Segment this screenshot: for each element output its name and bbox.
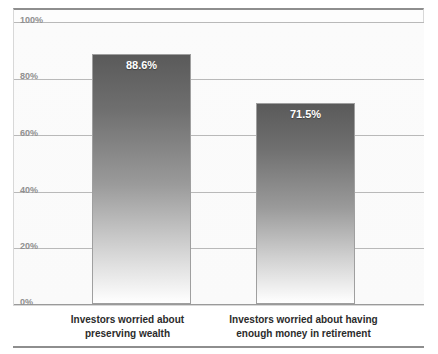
y-axis-tick-80: 80%: [20, 72, 66, 81]
category-label-1-line-1: Investors worried about: [71, 314, 184, 325]
y-axis-tick-0: 0%: [20, 298, 66, 307]
gridline-60: [14, 135, 424, 136]
category-label-2-line-2: enough money in retirement: [212, 327, 395, 341]
chart-container: 88.6% 71.5% 100% 80% 60% 40% 20% 0% Inve…: [0, 0, 438, 354]
plot-area: 88.6% 71.5%: [14, 22, 424, 305]
gridline-80: [14, 79, 424, 80]
category-label-1-line-2: preserving wealth: [47, 327, 208, 341]
bottom-rule: [13, 346, 424, 348]
bar-value-label-2: 71.5%: [256, 108, 355, 120]
category-label-2-line-1: Investors worried about having: [229, 314, 377, 325]
gridline-40: [14, 192, 424, 193]
category-label-2: Investors worried about having enough mo…: [212, 313, 395, 341]
category-label-1: Investors worried about preserving wealt…: [47, 313, 208, 341]
y-axis-tick-20: 20%: [20, 242, 66, 251]
bar-investors-preserving-wealth: [92, 54, 191, 304]
gridline-20: [14, 248, 424, 249]
gridline-0: [14, 304, 424, 305]
bar-investors-retirement-money: [256, 103, 355, 304]
y-axis-tick-60: 60%: [20, 129, 66, 138]
y-axis-tick-100: 100%: [20, 16, 66, 25]
gridline-100: [14, 22, 424, 23]
bar-value-label-1: 88.6%: [92, 59, 191, 71]
y-axis-tick-40: 40%: [20, 186, 66, 195]
